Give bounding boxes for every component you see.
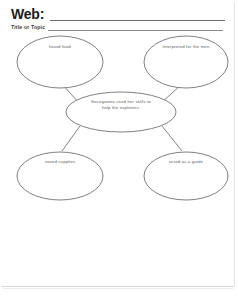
connector-center-to-bottom-right [162,126,182,151]
connector-center-to-bottom-left [62,126,80,151]
ellipse-center-label: Sacagawea used her skills to help the ex… [66,99,176,111]
diagram-ellipses [17,36,228,200]
web-diagram: found food interpreted for the men Sacag… [0,0,238,296]
page-edge-bottom-shadow [3,288,233,289]
page-edge-right [234,2,235,286]
ellipse-center[interactable] [66,92,176,132]
ellipse-top-left-label: found food [17,44,103,50]
ellipse-top-right-label: interpreted for the men [144,44,228,50]
worksheet-page: Web: Title or Topic [0,0,238,296]
ellipse-bottom-right-label: acted as a guide [144,159,228,165]
ellipse-bottom-left-label: saved supplies [17,159,103,165]
page-edge-bottom [2,286,234,287]
